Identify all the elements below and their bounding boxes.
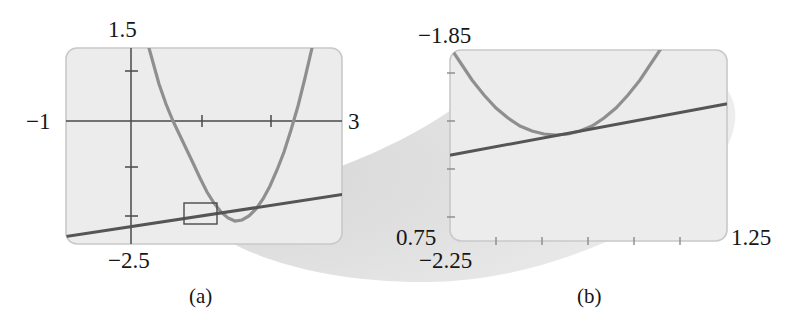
panel-b-right-axis-label: 1.25	[731, 226, 771, 249]
figure-zoom-comparison: 1.5 −1 3 −2.5 (a) −1.85 0.75 −2.25 1.25 …	[0, 0, 793, 324]
panel-b-background	[450, 50, 727, 241]
panel-b-left-axis-label: 0.75	[396, 226, 436, 249]
panel-b-top-axis-label: −1.85	[418, 24, 471, 47]
panel-a-right-axis-label: 3	[348, 110, 360, 133]
plot-panel-b	[447, 30, 727, 245]
panel-b-bottom-axis-label: −2.25	[419, 249, 472, 272]
panel-a-bottom-axis-label: −2.5	[108, 249, 150, 272]
panel-a-top-axis-label: 1.5	[108, 18, 137, 41]
panel-a-left-axis-label: −1	[26, 110, 50, 133]
panel-b-caption: (b)	[577, 286, 602, 307]
panel-a-caption: (a)	[189, 286, 212, 307]
figure-graphics	[0, 0, 793, 324]
plot-panel-a	[60, 0, 348, 250]
